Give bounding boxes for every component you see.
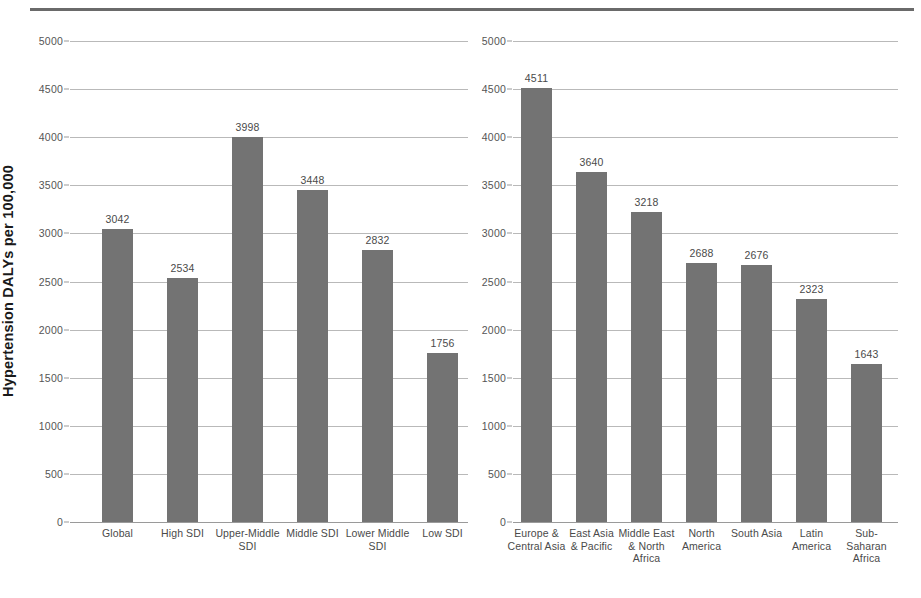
y-tick-label-3500: 3500 <box>39 179 63 191</box>
y-tick-label-3000: 3000 <box>482 227 506 239</box>
x-category-label: Latin America <box>781 527 842 552</box>
gridline-5000 <box>513 41 898 42</box>
bar[interactable] <box>427 353 458 522</box>
x-category-label: Europe & Central Asia <box>506 527 567 552</box>
x-category-label: Middle SDI <box>277 527 348 540</box>
bar[interactable] <box>362 250 393 522</box>
x-category-label: Lower Middle SDI <box>342 527 413 552</box>
bar[interactable] <box>631 212 662 522</box>
bar[interactable] <box>741 265 772 522</box>
y-tick-mark-3500 <box>507 185 512 186</box>
gridline-3000 <box>513 233 898 234</box>
y-tick-label-1500: 1500 <box>39 372 63 384</box>
bar-value-label: 3042 <box>105 213 129 225</box>
y-tick-label-4500: 4500 <box>482 83 506 95</box>
bar-value-label: 3998 <box>235 121 259 133</box>
chart-panel-regions: 0500100015002000250030003500400045005000… <box>470 0 921 598</box>
x-category-label: Low SDI <box>407 527 478 540</box>
y-tick-mark-1000 <box>64 425 69 426</box>
y-tick-mark-2500 <box>507 281 512 282</box>
y-tick-label-4500: 4500 <box>39 83 63 95</box>
y-tick-mark-3000 <box>64 233 69 234</box>
chart-panel-sdi: Hypertension DALYs per 100,000 050010001… <box>0 0 470 598</box>
y-tick-label-4000: 4000 <box>39 131 63 143</box>
y-tick-label-2000: 2000 <box>39 324 63 336</box>
y-tick-mark-1500 <box>507 377 512 378</box>
y-tick-label-2500: 2500 <box>39 276 63 288</box>
y-tick-label-5000: 5000 <box>39 35 63 47</box>
gridline-4500 <box>513 89 898 90</box>
y-tick-label-0: 0 <box>57 516 63 528</box>
y-tick-mark-4000 <box>507 137 512 138</box>
y-tick-mark-500 <box>507 473 512 474</box>
gridline-5000 <box>70 41 468 42</box>
bar-value-label: 3640 <box>579 156 603 168</box>
plot-area-left: 0500100015002000250030003500400045005000… <box>70 41 468 522</box>
y-tick-mark-4500 <box>64 89 69 90</box>
y-tick-label-2000: 2000 <box>482 324 506 336</box>
gridline-0 <box>513 522 898 523</box>
y-tick-mark-1500 <box>64 377 69 378</box>
gridline-3500 <box>513 185 898 186</box>
y-tick-mark-500 <box>64 473 69 474</box>
bar-value-label: 4511 <box>525 72 548 84</box>
bar[interactable] <box>232 137 263 522</box>
bar[interactable] <box>851 364 882 522</box>
x-category-label: South Asia <box>726 527 787 540</box>
y-tick-mark-1000 <box>507 425 512 426</box>
bar[interactable] <box>521 88 552 522</box>
bar[interactable] <box>167 278 198 522</box>
bar-value-label: 3448 <box>300 174 324 186</box>
y-tick-mark-5000 <box>507 41 512 42</box>
y-tick-mark-3000 <box>507 233 512 234</box>
gridline-3500 <box>70 185 468 186</box>
bar-value-label: 1756 <box>430 337 454 349</box>
y-tick-label-500: 500 <box>488 468 506 480</box>
x-category-label: Global <box>82 527 153 540</box>
y-tick-mark-3500 <box>64 185 69 186</box>
plot-area-right: 0500100015002000250030003500400045005000… <box>513 41 898 522</box>
gridline-4500 <box>70 89 468 90</box>
y-tick-mark-2000 <box>64 329 69 330</box>
y-tick-mark-0 <box>64 522 69 523</box>
bar[interactable] <box>297 190 328 522</box>
bar[interactable] <box>576 172 607 522</box>
y-tick-label-4000: 4000 <box>482 131 506 143</box>
y-tick-mark-0 <box>507 522 512 523</box>
y-tick-label-1000: 1000 <box>482 420 506 432</box>
y-tick-label-500: 500 <box>45 468 63 480</box>
x-category-label: East Asia & Pacific <box>561 527 622 552</box>
y-tick-label-1500: 1500 <box>482 372 506 384</box>
gridline-4000 <box>513 137 898 138</box>
y-tick-mark-2500 <box>64 281 69 282</box>
bar[interactable] <box>102 229 133 522</box>
y-tick-label-5000: 5000 <box>482 35 506 47</box>
y-tick-label-3500: 3500 <box>482 179 506 191</box>
bar-value-label: 1643 <box>854 348 878 360</box>
x-category-label: Middle East & North Africa <box>616 527 677 565</box>
bar-value-label: 2832 <box>365 234 389 246</box>
y-tick-mark-2000 <box>507 329 512 330</box>
y-tick-mark-4500 <box>507 89 512 90</box>
bar[interactable] <box>796 299 827 522</box>
x-category-label: Upper-Middle SDI <box>212 527 283 552</box>
bar-value-label: 2534 <box>170 262 194 274</box>
y-axis-title: Hypertension DALYs per 100,000 <box>0 165 16 397</box>
y-tick-label-1000: 1000 <box>39 420 63 432</box>
y-tick-mark-5000 <box>64 41 69 42</box>
x-category-label: High SDI <box>147 527 218 540</box>
x-category-label: Sub-Saharan Africa <box>836 527 897 565</box>
bar-value-label: 2323 <box>799 283 823 295</box>
y-tick-label-3000: 3000 <box>39 227 63 239</box>
bar-value-label: 2676 <box>744 249 768 261</box>
y-tick-label-2500: 2500 <box>482 276 506 288</box>
gridline-0 <box>70 522 468 523</box>
y-tick-mark-4000 <box>64 137 69 138</box>
x-category-label: North America <box>671 527 732 552</box>
bar[interactable] <box>686 263 717 522</box>
bar-value-label: 3218 <box>634 196 658 208</box>
bar-value-label: 2688 <box>689 247 713 259</box>
gridline-4000 <box>70 137 468 138</box>
